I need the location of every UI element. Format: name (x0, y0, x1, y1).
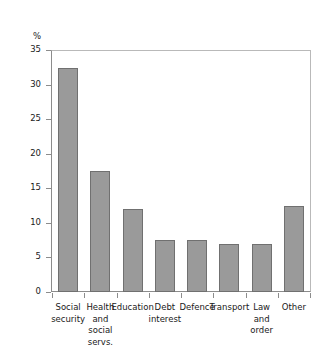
x-axis-tick-mark (149, 293, 150, 298)
y-axis-tick-label: 10 (30, 217, 41, 228)
bar[interactable] (219, 244, 239, 292)
y-axis-tick-label: 0 (36, 286, 41, 297)
x-axis-tick-label-line: and (78, 314, 122, 326)
bar-slot (84, 50, 116, 292)
x-axis-tick-mark (84, 293, 85, 298)
bar[interactable] (187, 240, 207, 292)
bar-slot (117, 50, 149, 292)
x-axis-tick-label-line: order (240, 325, 284, 337)
y-axis-tick-mark (46, 50, 51, 51)
y-axis-tick-mark (46, 119, 51, 120)
bar[interactable] (155, 240, 175, 292)
x-axis-tick-mark (52, 293, 53, 298)
x-axis-tick-label: Other (272, 302, 316, 314)
y-axis-tick-label: 25 (30, 113, 41, 124)
x-axis-tick-label-line: interest (143, 314, 187, 326)
y-axis-tick-label: 15 (30, 182, 41, 193)
bar[interactable] (252, 244, 272, 292)
bar-slot (213, 50, 245, 292)
x-axis-tick-mark (117, 293, 118, 298)
y-axis-tick-label: 20 (30, 148, 41, 159)
y-axis-tick-mark (46, 188, 51, 189)
x-axis-tick-mark (246, 293, 247, 298)
bar-slot (181, 50, 213, 292)
y-axis-tick-label: 5 (36, 251, 41, 262)
bar[interactable] (284, 206, 304, 292)
y-axis-tick-label: 35 (30, 44, 41, 55)
y-axis-tick-mark (46, 154, 51, 155)
bar[interactable] (58, 68, 78, 292)
y-axis-tick-mark (46, 223, 51, 224)
x-axis-tick-label-line: Other (272, 302, 316, 314)
y-axis-unit-label: % (33, 31, 41, 41)
x-axis-tick-label-line: and (240, 314, 284, 326)
bar-slot (52, 50, 84, 292)
bar[interactable] (90, 171, 110, 292)
x-axis-tick-mark (181, 293, 182, 298)
y-axis-tick-mark (46, 85, 51, 86)
x-axis-tick-label-line: social (78, 325, 122, 337)
bar-slot (149, 50, 181, 292)
bar-slot (278, 50, 310, 292)
bar[interactable] (123, 209, 143, 292)
y-axis-tick-mark (46, 257, 51, 258)
bar-slot (246, 50, 278, 292)
y-axis-tick-label: 30 (30, 79, 41, 90)
x-axis-tick-mark (213, 293, 214, 298)
bars-layer (52, 50, 310, 292)
x-axis-tick-mark (310, 293, 311, 298)
y-axis-tick-mark (46, 292, 51, 293)
x-axis-tick-label-line: servs. (78, 337, 122, 349)
bar-chart: % 05101520253035 SocialsecurityHealthand… (0, 0, 332, 361)
x-axis-tick-mark (278, 293, 279, 298)
